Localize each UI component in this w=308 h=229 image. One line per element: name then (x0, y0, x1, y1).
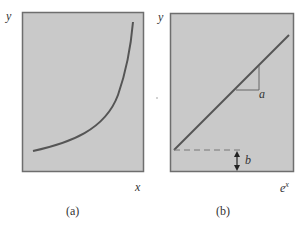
panel-b-x-label-exponent: x (285, 180, 289, 189)
panel-a-plot-area (23, 13, 144, 172)
panel-b-y-label: y (158, 10, 163, 25)
stray-dot (156, 97, 158, 99)
figure (0, 0, 308, 229)
panel-a-y-label: y (6, 9, 11, 24)
panel-b-x-label: ex (280, 180, 289, 196)
caption-b: (b) (216, 204, 230, 219)
slope-label: a (259, 87, 265, 102)
caption-a: (a) (66, 204, 79, 219)
panel-a-x-label: x (135, 180, 140, 195)
intercept-label: b (245, 153, 251, 168)
